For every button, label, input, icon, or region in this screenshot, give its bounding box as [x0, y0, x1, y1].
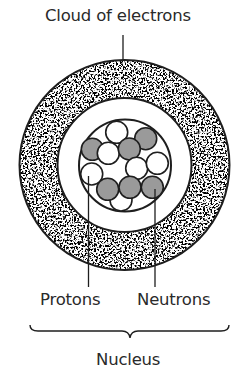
neutron-particle — [119, 176, 141, 198]
nucleus-label: Nucleus — [96, 350, 160, 369]
neutron-particle — [141, 176, 163, 198]
protons-label: Protons — [40, 290, 100, 309]
proton-particle — [146, 152, 168, 174]
atom-diagram — [0, 0, 248, 378]
nucleus — [79, 120, 171, 212]
neutrons-label: Neutrons — [137, 290, 210, 309]
cloud-of-electrons-label: Cloud of electrons — [45, 6, 191, 25]
proton-particle — [97, 142, 119, 164]
neutron-particle — [97, 178, 119, 200]
